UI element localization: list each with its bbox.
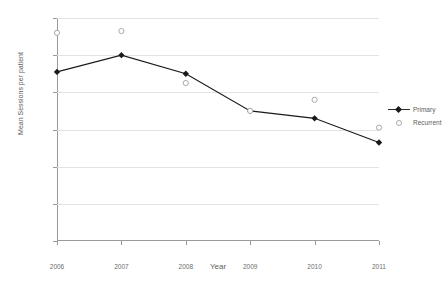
x-tick-label: 2006 (37, 263, 77, 270)
series-line-primary (57, 55, 379, 142)
data-point-primary (376, 139, 382, 145)
legend-label-primary: Primary (413, 106, 435, 113)
legend-marker-recurrent (388, 118, 410, 128)
legend-item-recurrent: Recurrent (388, 116, 442, 129)
data-point-primary (183, 71, 189, 77)
data-point-recurrent (54, 30, 59, 35)
x-tick (121, 241, 122, 245)
x-tick-label: 2010 (295, 263, 335, 270)
legend-marker-primary (388, 105, 410, 115)
x-tick (250, 241, 251, 245)
data-series-layer (57, 18, 379, 241)
data-point-primary (118, 52, 124, 58)
x-tick-label: 2007 (101, 263, 141, 270)
x-tick (186, 241, 187, 245)
data-point-primary (54, 69, 60, 75)
x-tick-label: 2009 (230, 263, 270, 270)
legend-item-primary: Primary (388, 103, 442, 116)
data-point-primary (311, 115, 317, 121)
data-point-recurrent (248, 108, 253, 113)
chart-legend: Primary Recurrent (388, 103, 442, 129)
x-tick (379, 241, 380, 245)
data-point-recurrent (183, 80, 188, 85)
x-tick-label: 2011 (359, 263, 399, 270)
data-point-recurrent (119, 28, 124, 33)
plot-area: 0.01.02.03.04.05.06.02006200720082009201… (57, 18, 379, 241)
data-point-recurrent (312, 97, 317, 102)
x-tick (315, 241, 316, 245)
y-axis-title: Mean Sessions per patient (17, 0, 24, 189)
x-tick (57, 241, 58, 245)
legend-label-recurrent: Recurrent (413, 119, 442, 126)
x-tick-label: 2008 (166, 263, 206, 270)
data-point-recurrent (376, 125, 381, 130)
